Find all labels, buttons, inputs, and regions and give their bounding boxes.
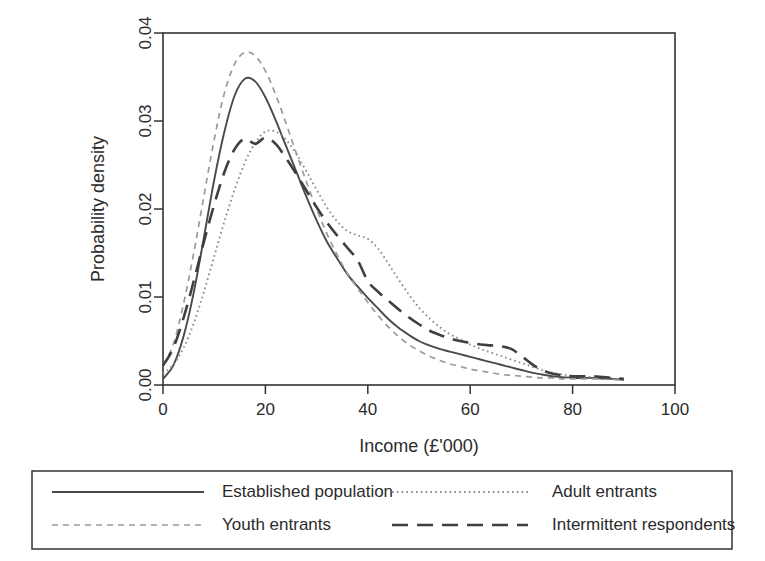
x-tick-label: 60 — [461, 400, 480, 419]
x-axis-ticks: 020406080100 — [158, 385, 689, 419]
x-tick-label: 80 — [563, 400, 582, 419]
legend-label: Intermittent respondents — [552, 515, 735, 534]
legend-label: Established population — [222, 482, 393, 501]
figure-container: 0.000.010.020.030.04 020406080100 Income… — [0, 0, 765, 561]
legend-label: Youth entrants — [222, 515, 331, 534]
legend-label: Adult entrants — [552, 482, 657, 501]
x-tick-label: 40 — [358, 400, 377, 419]
density-plot: 0.000.010.020.030.04 020406080100 Income… — [0, 0, 765, 561]
series-line — [163, 138, 624, 379]
legend-entries: Established populationAdult entrantsYout… — [52, 482, 735, 534]
y-tick-label: 0.02 — [136, 192, 155, 225]
series-line — [163, 130, 624, 379]
y-axis-ticks: 0.000.010.020.030.04 — [136, 16, 163, 401]
x-tick-label: 100 — [661, 400, 689, 419]
y-tick-label: 0.04 — [136, 16, 155, 49]
y-tick-label: 0.00 — [136, 368, 155, 401]
y-tick-label: 0.01 — [136, 280, 155, 313]
x-tick-label: 20 — [256, 400, 275, 419]
x-axis-title: Income (£'000) — [359, 436, 479, 456]
y-tick-label: 0.03 — [136, 104, 155, 137]
series-line — [163, 78, 624, 380]
x-tick-label: 0 — [158, 400, 167, 419]
y-axis-title: Probability density — [88, 136, 108, 282]
series-group — [163, 52, 624, 380]
